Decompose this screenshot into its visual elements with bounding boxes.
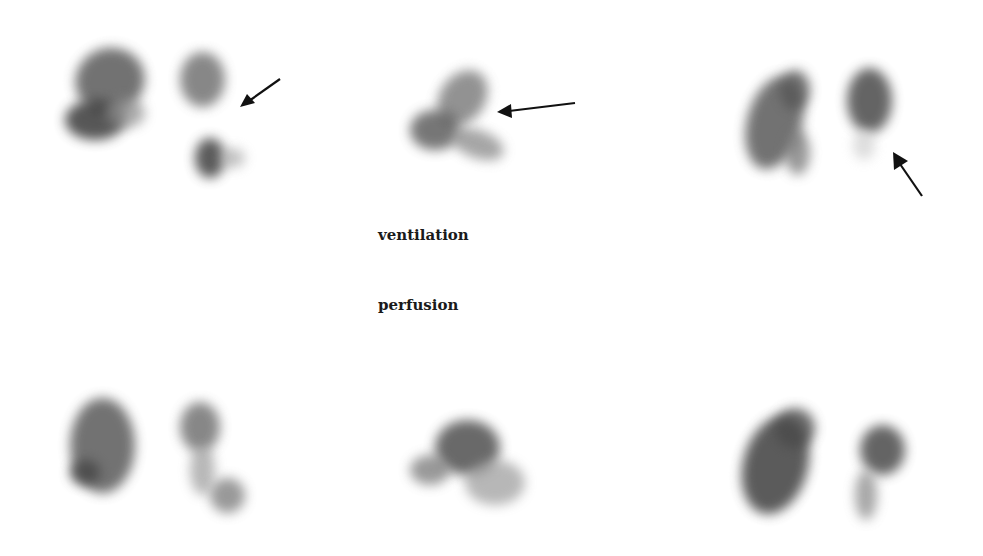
arrow-icon <box>495 98 580 120</box>
perfusion-image-1 <box>60 390 260 525</box>
perfusion-image-2 <box>405 400 545 520</box>
ventilation-label: ventilation <box>378 226 469 244</box>
perfusion-label: perfusion <box>378 296 458 314</box>
ventilation-image-1 <box>55 40 255 190</box>
ventilation-image-3 <box>735 60 905 190</box>
arrow-icon <box>235 75 285 110</box>
arrow-icon <box>888 148 928 200</box>
perfusion-image-3 <box>735 400 915 525</box>
